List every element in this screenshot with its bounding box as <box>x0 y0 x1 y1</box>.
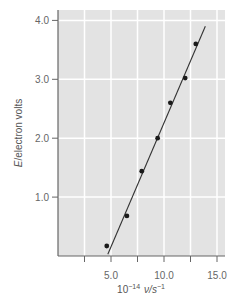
data-point <box>183 76 188 81</box>
x-axis-ticks: 5.010.015.0 <box>85 256 228 281</box>
x-axis-title-unit: /s <box>148 284 157 295</box>
x-axis-title-base: 10 <box>117 284 129 295</box>
x-tick-label: 15.0 <box>207 270 227 281</box>
y-tick-label: 3.0 <box>35 74 49 85</box>
y-axis-ticks: 1.02.03.04.0 <box>35 15 58 203</box>
data-point <box>139 169 144 174</box>
y-tick-label: 2.0 <box>35 133 49 144</box>
data-point <box>125 214 130 219</box>
y-tick-label: 4.0 <box>35 15 49 26</box>
y-axis-title-unit: /electron volts <box>13 99 24 161</box>
data-point <box>155 136 160 141</box>
x-axis-title-exponent: −14 <box>128 283 140 290</box>
x-tick-label: 10.0 <box>154 270 174 281</box>
plot-area <box>58 10 225 256</box>
y-axis-title: E/electron volts <box>13 99 24 167</box>
data-point <box>193 42 198 47</box>
x-tick-label: 5.0 <box>104 270 118 281</box>
data-point <box>168 100 173 105</box>
x-axis-title-unit-exponent: −1 <box>157 283 165 290</box>
x-axis-title: 10−14ν/s−1 <box>117 283 165 295</box>
chart: 1.02.03.04.0 5.010.015.0 E/electron volt… <box>0 0 242 300</box>
y-tick-label: 1.0 <box>35 192 49 203</box>
data-point <box>104 244 109 249</box>
